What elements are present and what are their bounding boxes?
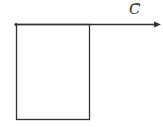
diagram-canvas — [0, 0, 163, 127]
vector-origin-dot — [14, 23, 17, 26]
rectangle-shape — [17, 25, 90, 120]
vector-arrowhead-icon — [154, 22, 161, 28]
vector-label-arrow-icon: → — [131, 0, 139, 9]
